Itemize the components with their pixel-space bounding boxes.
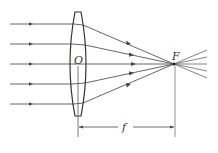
label-focal-point: F — [171, 50, 180, 63]
label-focal-length: f — [121, 121, 128, 134]
incident-rays — [10, 24, 74, 104]
refracted-rays — [83, 25, 174, 103]
lens-diagram: O F f — [0, 0, 218, 153]
label-optical-center: O — [74, 54, 83, 67]
